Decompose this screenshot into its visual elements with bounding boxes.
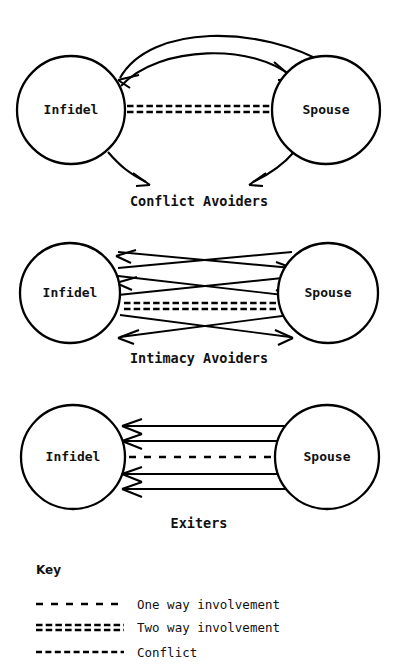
arrowhead-bot-left bbox=[118, 330, 139, 344]
caption-intimacy-avoiders: Intimacy Avoiders bbox=[130, 350, 268, 366]
key-entry-conflict: Conflict bbox=[36, 645, 197, 660]
diagram-conflict-avoiders: Infidel Spouse Conflict Avoiders bbox=[17, 36, 380, 209]
key-label-two-way: Two way involvement bbox=[137, 620, 280, 635]
two-way-line-conflict bbox=[127, 106, 271, 112]
key-legend: Key One way involvement Two way involvem… bbox=[36, 563, 280, 660]
diagram-svg: Infidel Spouse Conflict Avoiders bbox=[0, 0, 397, 669]
key-entry-one-way: One way involvement bbox=[36, 597, 280, 612]
node-label-spouse-exiters: Spouse bbox=[304, 449, 351, 464]
diagram-exiters: Infidel Spouse Exiters bbox=[21, 405, 379, 531]
arc-infidel-to-spouse bbox=[121, 53, 292, 86]
arrowhead-bot-right bbox=[275, 330, 293, 345]
diagram-intimacy-avoiders: Infidel Spouse Intimacy Avoiders bbox=[20, 243, 378, 366]
two-way-line-intimacy bbox=[124, 303, 277, 309]
node-label-spouse-intimacy: Spouse bbox=[305, 285, 352, 300]
arrowhead-conflict-left bbox=[133, 173, 150, 186]
arrowhead-conflict-right bbox=[249, 173, 266, 186]
caption-exiters: Exiters bbox=[171, 515, 228, 531]
figure-canvas: Infidel Spouse Conflict Avoiders bbox=[0, 0, 397, 669]
caption-conflict-avoiders: Conflict Avoiders bbox=[130, 193, 268, 209]
key-heading: Key bbox=[36, 563, 61, 577]
node-label-spouse-conflict: Spouse bbox=[303, 102, 350, 117]
key-entry-two-way: Two way involvement bbox=[36, 620, 280, 635]
node-label-infidel-intimacy: Infidel bbox=[43, 285, 98, 300]
node-label-infidel-exiters: Infidel bbox=[46, 449, 101, 464]
node-label-infidel-conflict: Infidel bbox=[44, 102, 99, 117]
key-label-one-way: One way involvement bbox=[137, 597, 280, 612]
key-label-conflict: Conflict bbox=[137, 645, 197, 660]
